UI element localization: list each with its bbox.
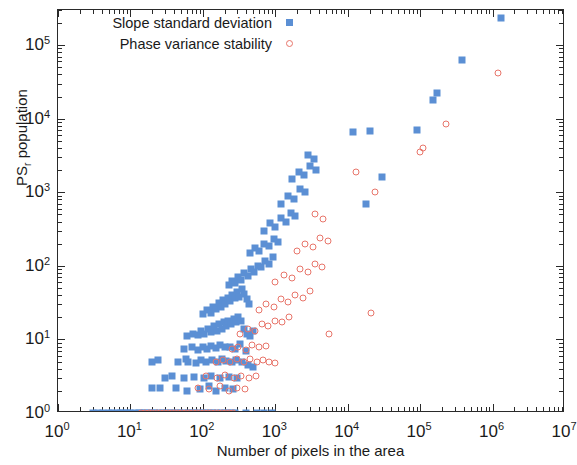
data-point-circle — [324, 237, 331, 244]
y-tick-label: 105 — [8, 35, 50, 54]
legend-label: Phase variance stability — [120, 36, 272, 52]
data-point-circle — [297, 266, 304, 273]
data-point-square — [272, 223, 279, 230]
data-point-circle — [270, 303, 277, 310]
y-tick-label: 101 — [8, 329, 50, 348]
data-point-square — [154, 357, 161, 364]
data-point-square — [429, 96, 436, 103]
data-point-circle — [272, 317, 279, 324]
data-point-circle — [352, 168, 359, 175]
data-point-circle — [249, 341, 256, 348]
data-point-circle — [242, 346, 249, 353]
data-point-square — [366, 128, 373, 135]
data-point-square — [181, 374, 188, 381]
data-point-circle — [237, 330, 244, 337]
data-point-circle — [319, 216, 326, 223]
x-tick-label: 105 — [407, 421, 432, 440]
data-point-square — [251, 269, 258, 276]
data-point-square — [288, 176, 295, 183]
data-point-circle — [302, 240, 309, 247]
data-point-square — [266, 261, 273, 268]
data-point-square — [256, 247, 263, 254]
data-point-square — [292, 212, 299, 219]
data-point-circle — [234, 384, 241, 391]
data-point-circle — [304, 269, 311, 276]
data-point-circle — [311, 261, 318, 268]
data-point-square — [497, 15, 504, 22]
x-axis-title: Number of pixels in the area — [57, 443, 564, 458]
data-point-square — [302, 189, 309, 196]
data-point-circle — [212, 358, 219, 365]
data-point-square — [275, 239, 282, 246]
x-tick-label: 101 — [117, 421, 142, 440]
data-point-circle — [372, 189, 379, 196]
data-point-circle — [263, 301, 270, 308]
data-point-circle — [311, 211, 318, 218]
data-point-circle — [263, 342, 270, 349]
data-point-circle — [299, 295, 306, 302]
data-point-square — [238, 317, 245, 324]
data-point-circle — [272, 359, 279, 366]
data-point-circle — [216, 383, 223, 390]
data-point-square — [172, 384, 179, 391]
data-point-square — [243, 410, 250, 413]
x-tick-label: 107 — [551, 421, 576, 440]
data-point-circle — [368, 309, 375, 316]
x-tick-label: 104 — [334, 421, 359, 440]
data-point-circle — [226, 387, 233, 394]
legend-label: Slope standard deviation — [112, 15, 272, 31]
data-point-circle — [231, 374, 238, 381]
data-point-square — [459, 57, 466, 64]
data-point-square — [310, 156, 317, 163]
data-point-circle — [205, 386, 212, 393]
legend-entry-phase-variance-stability: Phase variance stability — [88, 33, 293, 54]
data-point-circle — [251, 328, 258, 335]
data-point-circle — [256, 307, 263, 314]
y-tick-label: 100 — [8, 403, 50, 422]
data-point-circle — [309, 244, 316, 251]
data-point-square — [181, 345, 188, 352]
data-point-square — [157, 384, 164, 391]
data-point-circle — [245, 374, 252, 381]
data-point-circle — [194, 384, 201, 391]
data-point-circle — [286, 314, 293, 321]
data-point-circle — [285, 299, 292, 306]
data-point-square — [254, 410, 261, 413]
data-point-square — [246, 301, 253, 308]
data-point-square — [350, 129, 357, 136]
data-point-circle — [238, 372, 245, 379]
data-point-square — [261, 410, 268, 413]
y-axis-title-base: PS — [13, 166, 30, 186]
data-point-square — [282, 218, 289, 225]
data-point-circle — [443, 120, 450, 127]
data-point-circle — [278, 296, 285, 303]
data-point-circle — [265, 323, 272, 330]
data-point-square — [183, 387, 190, 394]
data-point-circle — [280, 272, 287, 279]
data-point-circle — [241, 386, 248, 393]
data-point-circle — [325, 330, 332, 337]
filled-square-marker-icon — [286, 19, 293, 26]
data-point-square — [268, 410, 275, 413]
data-point-square — [266, 243, 273, 250]
legend-entry-slope-standard-deviation: Slope standard deviation — [88, 12, 293, 33]
data-point-circle — [227, 358, 234, 365]
data-point-circle — [294, 247, 301, 254]
y-tick-label: 102 — [8, 256, 50, 275]
data-point-circle — [256, 344, 263, 351]
y-axis-title-tail: population — [13, 89, 30, 162]
data-point-circle — [306, 288, 313, 295]
x-tick-label: 106 — [479, 421, 504, 440]
data-point-square — [190, 373, 197, 380]
x-tick-label: 100 — [44, 421, 69, 440]
data-point-circle — [272, 279, 279, 286]
data-point-square — [301, 172, 308, 179]
data-point-circle — [292, 292, 299, 299]
data-point-circle — [235, 343, 242, 350]
data-point-circle — [252, 372, 259, 379]
data-point-square — [258, 264, 265, 271]
x-tick-label: 102 — [189, 421, 214, 440]
data-point-square — [363, 200, 370, 207]
plot-area — [57, 9, 564, 412]
